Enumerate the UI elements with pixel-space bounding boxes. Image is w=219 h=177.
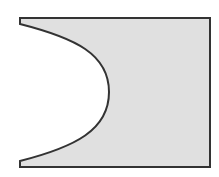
concave-block-shape: [20, 18, 210, 167]
diagram-canvas: [0, 0, 219, 177]
